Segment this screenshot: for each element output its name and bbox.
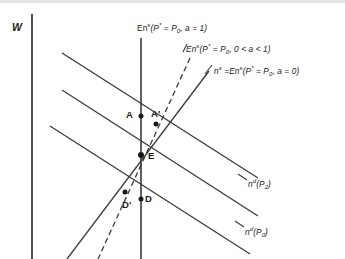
marker-a-prime bbox=[154, 122, 159, 127]
diagram-canvas bbox=[0, 0, 345, 259]
point-label-a: A bbox=[126, 110, 133, 120]
marker-e bbox=[138, 152, 144, 158]
economics-labor-market-diagram: W Ens(P* = P0, a = 1) Ens(P* = P0, 0 < a… bbox=[0, 0, 345, 259]
marker-d-prime bbox=[123, 190, 128, 195]
point-label-d: D bbox=[145, 194, 152, 204]
supply-curve-dashed-a-between bbox=[98, 58, 190, 259]
curve-label-n-s-en-s-a-equals-0: ns =Ens(P* = P0, a = 0) bbox=[214, 65, 299, 77]
curve-label-en-s-a-equals-1: Ens(P* = P0, a = 1) bbox=[137, 22, 207, 34]
curve-label-text: En bbox=[137, 23, 147, 33]
demand-curve-lower bbox=[50, 126, 250, 254]
leader-line-n-d-p2 bbox=[238, 174, 247, 180]
leader-line-n-d-p0 bbox=[235, 221, 244, 227]
marker-a bbox=[139, 114, 144, 119]
supply-curve-solid-a0 bbox=[67, 71, 209, 259]
curve-label-n-d-p0: nd(P0) bbox=[245, 226, 268, 238]
point-label-a-prime: A' bbox=[151, 109, 160, 119]
marker-d bbox=[139, 197, 144, 202]
curve-label-n-d-p2: nd(P2) bbox=[248, 178, 271, 190]
point-label-e: E bbox=[148, 151, 154, 161]
y-axis-label: W bbox=[12, 22, 22, 33]
point-label-d-prime: D' bbox=[122, 200, 131, 210]
curve-label-en-s-a-between-0-and-1: Ens(P* = P0, 0 < a < 1) bbox=[186, 43, 271, 55]
